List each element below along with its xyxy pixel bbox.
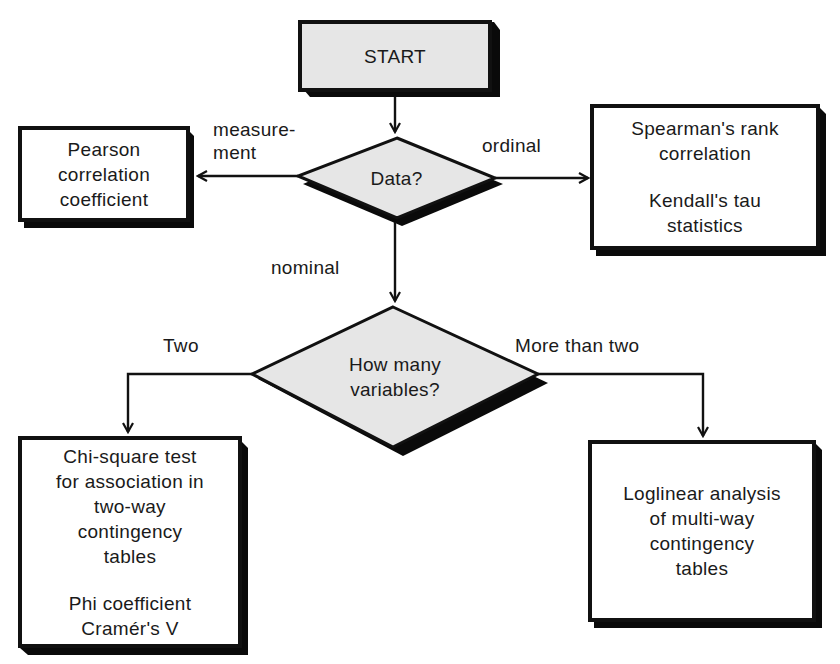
chi-square-line: two-way <box>94 494 166 519</box>
edge-label-more-than-two: More than two <box>515 334 639 357</box>
kendall-line: statistics <box>667 213 743 238</box>
pearson-line: Pearson <box>68 137 141 162</box>
edge-label-line: ment <box>213 141 296 164</box>
loglinear-line: of multi-way <box>650 506 755 531</box>
edge-label-ordinal: ordinal <box>482 134 541 157</box>
spearman-line: Spearman's rank <box>631 116 779 141</box>
pearson-line: coefficient <box>60 187 149 212</box>
edge-more-than-two <box>538 374 703 436</box>
variables-decision-line: How many <box>349 352 441 377</box>
pearson-line: correlation <box>58 162 150 187</box>
edge-two <box>128 374 252 432</box>
chi-square-node: Chi-square test for association in two-w… <box>20 438 240 646</box>
cramers-v-line: Cramér's V <box>81 616 178 641</box>
data-decision-node: Data? <box>298 138 495 218</box>
phi-line: Phi coefficient <box>69 591 191 616</box>
variables-decision-node: How many variables? <box>252 307 538 447</box>
chi-square-line: tables <box>104 544 157 569</box>
variables-decision-line: variables? <box>350 377 440 402</box>
flowchart-canvas: START Data? Pearson correlation coeffici… <box>0 0 840 664</box>
pearson-node: Pearson correlation coefficient <box>20 128 188 220</box>
edge-label-measurement: measure- ment <box>213 118 296 164</box>
loglinear-line: tables <box>676 556 729 581</box>
start-node: START <box>300 22 490 90</box>
edge-label-line: measure- <box>213 118 296 141</box>
loglinear-line: Loglinear analysis <box>623 481 781 506</box>
spearman-node: Spearman's rank correlation Kendall's ta… <box>592 106 818 248</box>
loglinear-line: contingency <box>650 531 755 556</box>
data-decision-label: Data? <box>370 166 422 191</box>
spearman-line: correlation <box>659 141 751 166</box>
edge-label-nominal: nominal <box>271 256 340 279</box>
start-label: START <box>364 44 426 69</box>
chi-square-line: for association in <box>56 469 204 494</box>
edge-label-two: Two <box>163 334 199 357</box>
chi-square-line: contingency <box>78 519 183 544</box>
kendall-line: Kendall's tau <box>649 188 761 213</box>
chi-square-line: Chi-square test <box>63 444 196 469</box>
loglinear-node: Loglinear analysis of multi-way continge… <box>590 442 814 620</box>
